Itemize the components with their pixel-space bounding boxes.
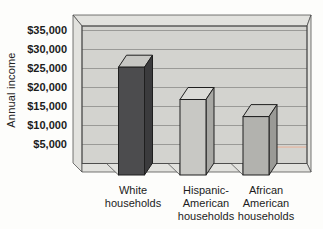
y-tick-label: $10,000 <box>27 119 67 131</box>
category-label: Whitehouseholds <box>105 184 161 210</box>
frame-top-strip <box>73 15 311 26</box>
bar-side-face <box>145 55 153 175</box>
y-tick-label: $25,000 <box>27 62 67 74</box>
frame-left-strip <box>73 15 82 172</box>
bar-front-face <box>180 100 206 176</box>
category-label: AfricanAmericanhouseholds <box>238 184 294 223</box>
category-label: Hispanic-Americanhouseholds <box>178 184 234 223</box>
bar-side-face <box>269 105 277 175</box>
y-tick-label: $35,000 <box>27 24 67 36</box>
bar-front-face <box>119 67 145 175</box>
income-bar-chart: $35,000$30,000$25,000$20,000$15,000$10,0… <box>0 0 323 229</box>
y-tick-label: $20,000 <box>27 81 67 93</box>
bar-front-face <box>243 117 269 175</box>
frame-right-strip <box>307 15 311 172</box>
y-tick-label: $30,000 <box>27 43 67 55</box>
y-tick-label: $15,000 <box>27 100 67 112</box>
y-tick-label: $5,000 <box>33 138 67 150</box>
bar-side-face <box>206 88 214 176</box>
y-axis-title: Annual income <box>5 52 17 127</box>
